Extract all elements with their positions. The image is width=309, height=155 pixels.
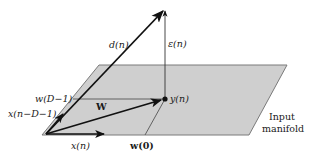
W-label: W — [95, 101, 107, 112]
input-manifold-label-line1: Input — [269, 111, 295, 122]
w-0-label: w(0) — [129, 140, 154, 151]
x-n-d-minus-1-label: x(n−D−1) — [8, 108, 57, 119]
y-n-label: y(n) — [169, 93, 189, 104]
adaptive-filter-geometry-diagram: d(n) ε(n) y(n) W w(D−1) x(n−D−1) x(n) w(… — [0, 0, 309, 155]
x-n-label: x(n) — [71, 140, 90, 151]
y-n-point — [162, 96, 167, 101]
epsilon-n-label: ε(n) — [168, 38, 187, 49]
d-n-label: d(n) — [109, 39, 129, 50]
w-d-minus-1-label: w(D−1) — [35, 93, 72, 104]
input-manifold-label-line2: manifold — [262, 123, 304, 134]
